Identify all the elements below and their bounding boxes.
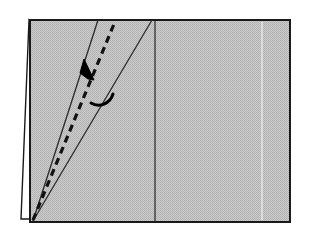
paper-sheet <box>30 20 290 222</box>
figure-canvas <box>0 0 309 236</box>
origami-figure: Origami fold diagram — valley fold along… <box>0 0 309 236</box>
